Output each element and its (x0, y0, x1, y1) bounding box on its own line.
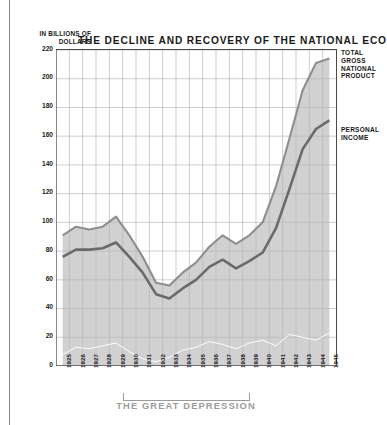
y-tick-label: 80 (23, 247, 53, 254)
y-tick-label: 140 (23, 161, 53, 168)
x-tick-label: 1935 (199, 354, 206, 368)
x-tick-label: 1945 (332, 354, 339, 368)
x-tick-label: 1942 (292, 354, 299, 368)
plot-area (56, 49, 337, 366)
x-tick-label: 1940 (265, 354, 272, 368)
y-tick-label: 160 (23, 132, 53, 139)
x-tick-label: 1939 (252, 354, 259, 368)
y-tick-label: 180 (23, 103, 53, 110)
x-tick-label: 1926 (79, 354, 86, 368)
series-label-gnp: TOTAL GROSS NATIONAL PRODUCT (341, 49, 387, 80)
x-tick-label: 1943 (305, 354, 312, 368)
x-tick-label: 1932 (159, 354, 166, 368)
series-label-personal-income: PERSONAL INCOME (341, 126, 387, 142)
x-tick-label: 1928 (105, 354, 112, 368)
x-tick-label: 1930 (132, 354, 139, 368)
depression-caption: THE GREAT DEPRESSION (96, 400, 276, 411)
x-tick-label: 1938 (239, 354, 246, 368)
x-tick-label: 1927 (92, 354, 99, 368)
y-tick-label: 0 (23, 362, 53, 369)
y-tick-label: 60 (23, 276, 53, 283)
y-tick-label: 220 (23, 46, 53, 53)
y-tick-label: 40 (23, 304, 53, 311)
page-gutter-rule (9, 0, 10, 425)
x-tick-label: 1931 (145, 354, 152, 368)
chart-svg (56, 50, 336, 366)
chart-title: THE DECLINE AND RECOVERY OF THE NATIONAL… (78, 35, 338, 46)
x-tick-label: 1933 (172, 354, 179, 368)
y-tick-label: 120 (23, 189, 53, 196)
x-tick-label: 1925 (65, 354, 72, 368)
x-tick-label: 1937 (225, 354, 232, 368)
chart-page: IN BILLIONS OF DOLLARS THE DECLINE AND R… (0, 0, 387, 425)
y-tick-label: 200 (23, 74, 53, 81)
y-tick-label: 20 (23, 333, 53, 340)
x-tick-label: 1929 (119, 354, 126, 368)
y-tick-label: 100 (23, 218, 53, 225)
x-tick-label: 1944 (319, 354, 326, 368)
x-tick-label: 1934 (185, 354, 192, 368)
x-tick-label: 1936 (212, 354, 219, 368)
x-tick-label: 1941 (279, 354, 286, 368)
